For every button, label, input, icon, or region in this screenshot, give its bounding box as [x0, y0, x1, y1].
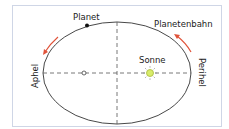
direction-arrow-left	[43, 37, 58, 55]
sun-icon	[143, 66, 157, 80]
planet-dot	[85, 24, 89, 28]
sun-label: Sonne	[139, 55, 166, 65]
orbit-label: Planetenbahn	[154, 19, 213, 29]
perihelion-label: Perihel	[197, 58, 207, 87]
planet-label: Planet	[73, 12, 100, 22]
orbit-diagram: Planet Planetenbahn Sonne Aphel Perihel	[0, 0, 229, 129]
aphelion-label: Aphel	[30, 64, 40, 88]
empty-focus	[82, 71, 86, 75]
